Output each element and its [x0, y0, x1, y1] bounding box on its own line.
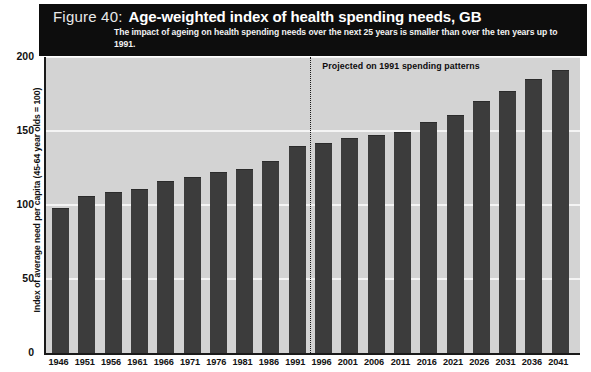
plot-area: Projected on 1991 spending patterns: [44, 57, 580, 355]
bar: [499, 91, 516, 353]
y-tick-label: 100: [0, 198, 34, 210]
bar: [184, 177, 201, 353]
bar: [236, 169, 253, 353]
bar: [131, 189, 148, 353]
bar: [473, 101, 490, 353]
bar: [289, 146, 306, 353]
bar: [105, 192, 122, 353]
bar: [210, 172, 227, 353]
bar: [262, 161, 279, 353]
projection-divider-line: [310, 57, 311, 353]
y-tick-label: 0: [0, 346, 34, 358]
plot-inner: Projected on 1991 spending patterns: [46, 57, 580, 353]
y-tick-label: 200: [0, 50, 34, 62]
projection-annotation-label: Projected on 1991 spending patterns: [322, 61, 479, 71]
figure-container: Figure 40:Age-weighted index of health s…: [0, 0, 591, 372]
figure-header-band: Figure 40:Age-weighted index of health s…: [39, 4, 587, 56]
bar: [447, 115, 464, 353]
y-tick-label: 50: [0, 272, 34, 284]
figure-subtitle: The impact of ageing on health spending …: [114, 27, 574, 50]
page-title: Age-weighted index of health spending ne…: [129, 8, 482, 25]
bar: [341, 138, 358, 353]
y-tick-label: 150: [0, 124, 34, 136]
bar: [420, 122, 437, 353]
bar: [52, 208, 69, 353]
x-tick-label: 2041: [541, 357, 575, 367]
bar: [394, 132, 411, 353]
gridline: [46, 57, 580, 58]
bar: [157, 181, 174, 353]
bar: [552, 70, 569, 353]
bar: [78, 196, 95, 353]
figure-header-text: Figure 40:Age-weighted index of health s…: [53, 8, 581, 26]
figure-number: Figure 40:: [53, 8, 123, 25]
bar: [315, 143, 332, 353]
bar: [525, 79, 542, 353]
bar: [368, 135, 385, 353]
